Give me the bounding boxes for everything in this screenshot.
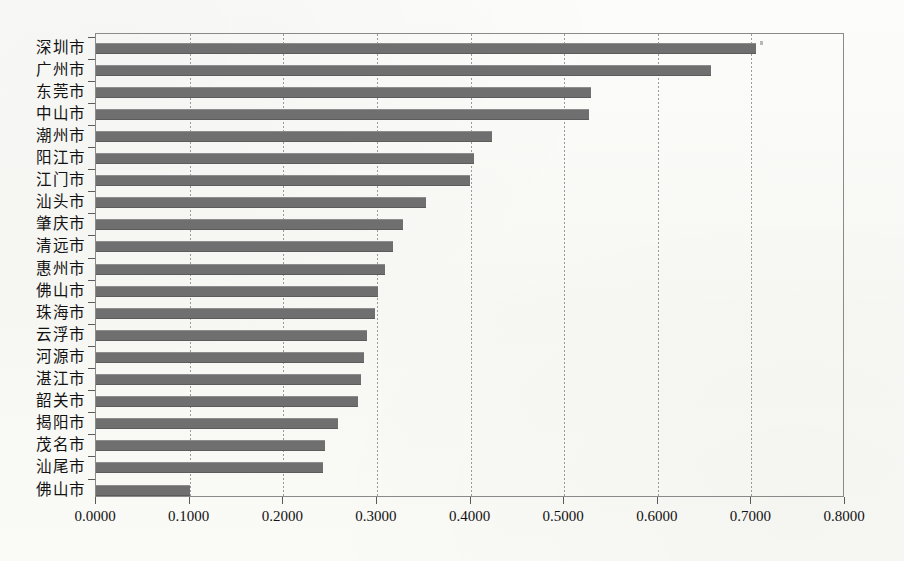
y-axis-tick: [88, 434, 95, 435]
x-axis-tick: [563, 497, 564, 504]
bar: [96, 462, 323, 473]
bar-row: [96, 391, 843, 413]
y-axis-label: 阳江市: [0, 150, 85, 166]
x-axis-label: 0.7000: [700, 508, 800, 524]
y-axis-tick: [88, 169, 95, 170]
y-axis-tick: [88, 103, 95, 104]
y-axis-label: 佛山市: [0, 283, 85, 299]
bar-row: [96, 303, 843, 325]
horizontal-bar-chart: 深圳市广州市东莞市中山市潮州市阳江市江门市汕头市肇庆市清远市惠州市佛山市珠海市云…: [0, 0, 904, 561]
x-axis-tick: [750, 497, 751, 504]
y-axis-label: 惠州市: [0, 261, 85, 277]
y-axis-label: 湛江市: [0, 371, 85, 387]
scan-speck: [760, 41, 763, 45]
y-axis-label: 汕头市: [0, 194, 85, 210]
bar-row: [96, 259, 843, 281]
x-axis-tick: [657, 497, 658, 504]
bar: [96, 374, 361, 385]
x-axis-tick: [282, 497, 283, 504]
y-axis-label: 东莞市: [0, 84, 85, 100]
y-axis-label: 潮州市: [0, 128, 85, 144]
bar: [96, 131, 492, 142]
bar-series: [96, 34, 843, 496]
bar: [96, 286, 378, 297]
y-axis-tick: [88, 479, 95, 480]
bar: [96, 153, 474, 164]
y-axis-label: 汕尾市: [0, 459, 85, 475]
y-axis-tick: [88, 59, 95, 60]
bar: [96, 330, 367, 341]
bar-row: [96, 60, 843, 82]
bar-row: [96, 148, 843, 170]
bar: [96, 219, 403, 230]
y-axis-tick: [88, 390, 95, 391]
y-axis-tick: [88, 324, 95, 325]
bar: [96, 87, 591, 98]
bar: [96, 175, 470, 186]
bar-row: [96, 347, 843, 369]
y-axis-tick: [88, 191, 95, 192]
y-axis-label: 韶关市: [0, 393, 85, 409]
y-axis-label: 中山市: [0, 106, 85, 122]
bar-row: [96, 126, 843, 148]
bar-row: [96, 281, 843, 303]
y-axis-label: 揭阳市: [0, 415, 85, 431]
plot-area: [95, 33, 844, 497]
y-axis-tick: [88, 147, 95, 148]
y-axis-tick: [88, 213, 95, 214]
x-axis-label: 0.5000: [513, 508, 613, 524]
bar: [96, 43, 756, 54]
y-axis-label: 肇庆市: [0, 216, 85, 232]
bar-row: [96, 236, 843, 258]
y-axis-tick: [88, 81, 95, 82]
y-axis-label: 深圳市: [0, 40, 85, 56]
bar: [96, 440, 325, 451]
y-axis-tick: [88, 346, 95, 347]
y-axis-tick: [88, 412, 95, 413]
bar-row: [96, 82, 843, 104]
x-axis-tick: [189, 497, 190, 504]
bar-row: [96, 325, 843, 347]
bar: [96, 308, 375, 319]
y-axis-tick: [88, 258, 95, 259]
y-axis-tick: [88, 235, 95, 236]
x-axis-tick: [95, 497, 96, 504]
bar: [96, 65, 711, 76]
y-axis-label: 佛山市: [0, 482, 85, 498]
bar-row: [96, 170, 843, 192]
bar: [96, 109, 589, 120]
bar-row: [96, 214, 843, 236]
x-axis-tick: [376, 497, 377, 504]
x-axis-tick: [844, 497, 845, 504]
x-axis-label: 0.0000: [45, 508, 145, 524]
bar-row: [96, 457, 843, 479]
bar-row: [96, 435, 843, 457]
x-axis-label: 0.4000: [420, 508, 520, 524]
bar: [96, 264, 385, 275]
bar-row: [96, 38, 843, 60]
bar-row: [96, 369, 843, 391]
bar: [96, 197, 426, 208]
bar: [96, 418, 338, 429]
bar: [96, 396, 358, 407]
x-axis-tick: [470, 497, 471, 504]
y-axis-label: 珠海市: [0, 305, 85, 321]
x-axis-label: 0.1000: [139, 508, 239, 524]
bar: [96, 241, 393, 252]
x-axis-label: 0.8000: [794, 508, 894, 524]
y-axis-tick: [88, 280, 95, 281]
bar-row: [96, 413, 843, 435]
x-axis-label: 0.2000: [232, 508, 332, 524]
y-axis-tick: [88, 456, 95, 457]
y-axis-tick: [88, 125, 95, 126]
bar: [96, 485, 190, 496]
bar-row: [96, 104, 843, 126]
y-axis-tick: [88, 368, 95, 369]
y-axis-tick: [88, 302, 95, 303]
bar-row: [96, 192, 843, 214]
y-axis-tick: [88, 37, 95, 38]
y-axis-label: 茂名市: [0, 437, 85, 453]
y-axis-label: 清远市: [0, 238, 85, 254]
y-axis-category-labels: 深圳市广州市东莞市中山市潮州市阳江市江门市汕头市肇庆市清远市惠州市佛山市珠海市云…: [0, 33, 95, 497]
bar: [96, 352, 364, 363]
